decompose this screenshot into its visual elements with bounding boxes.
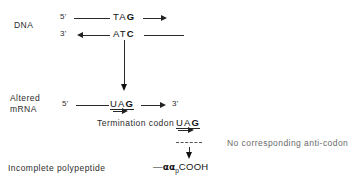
polypeptide-residues: αα bbox=[163, 162, 175, 172]
no-anticodon-label: No corresponding anti-codon bbox=[227, 138, 348, 149]
dna-top-codon: TAG bbox=[113, 11, 135, 22]
polypeptide-dash: — bbox=[153, 161, 163, 172]
dna-label: DNA bbox=[14, 20, 33, 31]
dna-bottom-codon: ATC bbox=[113, 28, 135, 39]
termination-codon-label: Termination codon bbox=[97, 118, 174, 129]
dna-top-right-line bbox=[143, 18, 161, 19]
altered-mrna-label-line2: mRNA bbox=[10, 104, 37, 115]
incomplete-polypeptide-label: Incomplete polypeptide bbox=[8, 163, 105, 174]
mrna-five-prime: 5' bbox=[62, 99, 69, 108]
mrna-right-line bbox=[141, 105, 160, 106]
dna-bottom-right-line bbox=[144, 35, 184, 36]
dna-top-five-prime: 5' bbox=[60, 12, 67, 21]
mrna-codon-underarrow-icon bbox=[122, 108, 128, 114]
mrna-arrow-right-icon bbox=[160, 102, 166, 108]
dna-top-arrow-right-icon bbox=[161, 15, 167, 21]
dna-bottom-three-prime: 3' bbox=[60, 29, 67, 38]
mutation-diagram: DNA 5' TAG 3' ATC Altered mRNA 5' UAG 3'… bbox=[0, 0, 357, 184]
dna-top-bases-plain: TA bbox=[113, 11, 127, 22]
dna-bottom-bases-plain: AT bbox=[113, 28, 127, 39]
dna-bottom-base-bold: C bbox=[127, 28, 135, 39]
dna-top-base-bold: G bbox=[127, 11, 136, 22]
transcription-arrow-down-icon bbox=[121, 84, 127, 91]
polypeptide-formula: —ααpCOOH bbox=[153, 161, 209, 176]
dna-bottom-left-line bbox=[83, 35, 110, 36]
mrna-left-line bbox=[76, 105, 109, 106]
termination-arrow-down-icon bbox=[186, 152, 192, 159]
altered-mrna-label-line1: Altered bbox=[10, 93, 40, 104]
termination-underarrow-icon bbox=[188, 127, 194, 133]
no-anticodon-dashed-line bbox=[176, 142, 202, 143]
transcription-line bbox=[124, 40, 125, 86]
dna-top-left-line bbox=[74, 18, 110, 19]
polypeptide-terminus: COOH bbox=[179, 161, 209, 172]
mrna-three-prime: 3' bbox=[172, 99, 179, 108]
